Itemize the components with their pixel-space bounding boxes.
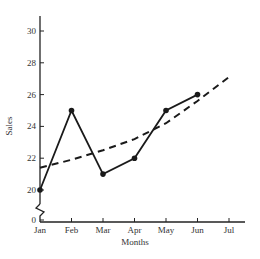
- y-tick-label: 30: [27, 26, 37, 36]
- data-point: [69, 108, 75, 114]
- x-tick-label: Mar: [96, 225, 111, 235]
- x-tick-label: Jan: [34, 225, 46, 235]
- x-tick-label: May: [158, 225, 175, 235]
- y-tick-label: 28: [27, 58, 37, 68]
- y-tick-label: 0: [32, 215, 37, 225]
- x-tick-label: Jun: [191, 225, 204, 235]
- data-point: [132, 155, 138, 161]
- x-tick-label: Apr: [128, 225, 142, 235]
- y-tick-label: 22: [27, 153, 36, 163]
- x-tick-label: Feb: [65, 225, 79, 235]
- series-group: [37, 77, 229, 193]
- axis-break-icon: [36, 204, 44, 222]
- x-axis-title: Months: [121, 237, 149, 247]
- x-ticks: JanFebMarAprMayJunJul: [34, 218, 235, 235]
- data-point: [163, 108, 169, 114]
- y-axis-title: Sales: [4, 116, 14, 135]
- y-ticks: 0202224262830: [27, 26, 44, 225]
- data-point: [195, 92, 201, 98]
- trend-line: [40, 77, 229, 168]
- y-tick-label: 26: [27, 90, 37, 100]
- x-tick-label: Jul: [224, 225, 235, 235]
- sales-line-chart: 0202224262830 JanFebMarAprMayJunJul Mont…: [0, 0, 260, 259]
- data-point: [100, 171, 106, 177]
- y-tick-label: 20: [27, 185, 37, 195]
- data-point: [37, 187, 43, 193]
- y-tick-label: 24: [27, 121, 37, 131]
- sales-line: [40, 95, 198, 190]
